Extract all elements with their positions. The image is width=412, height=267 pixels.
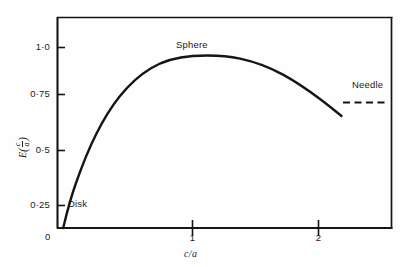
y-axis-title-denominator: a (22, 141, 31, 147)
x-axis-title: c/a (184, 249, 197, 259)
disk-label: Disk (68, 199, 87, 209)
y-tick-label-0-25: 0·25 (16, 200, 50, 210)
y-axis-title-fraction: c a (14, 141, 31, 147)
x-tick-label-2: 2 (309, 233, 328, 243)
y-axis-title-prefix: E (18, 152, 28, 158)
y-axis-title-open-paren: ( (17, 148, 29, 152)
origin-label: 0 (45, 232, 50, 242)
x-tick-label-1: 1 (183, 233, 202, 243)
needle-label: Needle (352, 80, 383, 90)
y-tick-label-1-0: 1·0 (20, 42, 50, 52)
y-axis-title: E ( c a ) (14, 137, 31, 158)
sphere-label: Sphere (176, 40, 208, 50)
y-axis-title-close-paren: ) (17, 137, 29, 141)
data-curve-e-of-c-over-a (63, 56, 341, 228)
plot-frame (57, 17, 393, 229)
y-axis-title-numerator: c (14, 142, 22, 148)
figure-container: 1·0 0·75 0·5 0·25 0 1 2 c/a E ( c a ) Di… (0, 0, 412, 267)
y-tick-label-0-75: 0·75 (17, 89, 50, 99)
